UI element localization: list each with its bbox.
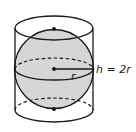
cylinder-bottom-front bbox=[15, 110, 93, 122]
height-label: h = 2r bbox=[96, 63, 132, 76]
sphere-in-cylinder-diagram: r h = 2r bbox=[0, 0, 136, 132]
center-point bbox=[52, 67, 56, 71]
bottom-pole-point bbox=[52, 107, 56, 111]
top-pole-point bbox=[52, 27, 56, 31]
